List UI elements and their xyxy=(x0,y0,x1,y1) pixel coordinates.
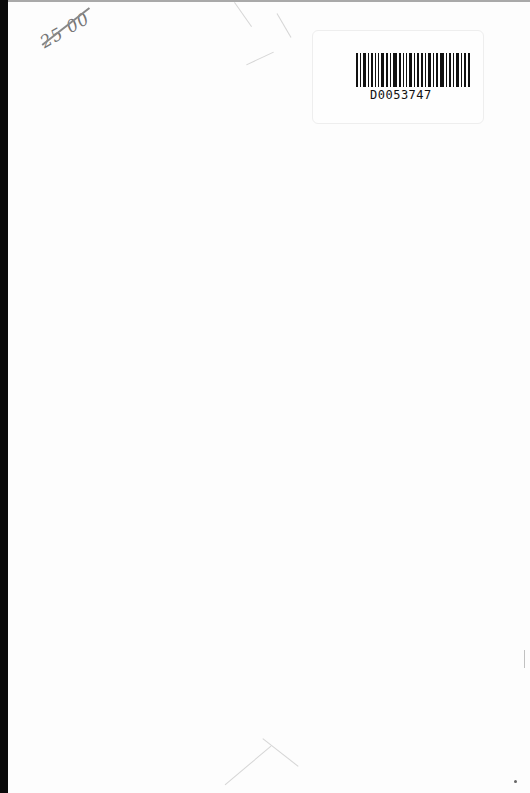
bleed-mark-top-right xyxy=(277,13,292,38)
barcode-bar xyxy=(468,53,470,87)
barcode-bar xyxy=(446,53,447,87)
barcode-bar xyxy=(381,53,384,87)
bleed-mark-top-left xyxy=(234,2,252,27)
barcode-bar xyxy=(428,53,431,87)
barcode-bar xyxy=(421,53,423,87)
speck-bottom-right xyxy=(514,780,517,783)
page-top-edge xyxy=(0,0,530,2)
bleed-mark-top-mid xyxy=(246,52,274,66)
scanned-page: 25 00 D0053747 xyxy=(0,0,530,793)
barcode-bar xyxy=(453,53,454,87)
barcode-bar xyxy=(440,53,444,87)
barcode-bar xyxy=(417,53,419,87)
barcode-bar xyxy=(403,53,404,87)
barcode-bar xyxy=(433,53,434,87)
barcode-bar xyxy=(386,53,388,87)
barcode-bar xyxy=(375,53,376,87)
barcode-bar xyxy=(378,53,379,87)
bleed-mark-bottom-left xyxy=(225,746,272,785)
barcode-bar xyxy=(390,53,391,87)
barcode-bar xyxy=(449,53,451,87)
handwritten-price: 25 00 xyxy=(37,8,93,52)
barcode-bar xyxy=(409,53,412,87)
barcode-bar xyxy=(371,53,373,87)
barcode-number: D0053747 xyxy=(370,88,432,102)
barcode-bar xyxy=(356,53,358,87)
barcode-bar xyxy=(406,53,407,87)
barcode-bar xyxy=(363,53,366,87)
barcode-icon xyxy=(356,53,476,87)
barcode-bar xyxy=(461,53,462,87)
barcode-bar xyxy=(456,53,459,87)
barcode-bar xyxy=(464,53,466,87)
barcode-bar xyxy=(425,53,426,87)
bleed-mark-right-edge xyxy=(524,650,525,668)
barcode-bar xyxy=(436,53,438,87)
barcode-bar xyxy=(368,53,369,87)
book-spine-edge xyxy=(0,0,8,793)
barcode-bar xyxy=(414,53,415,87)
barcode-bar xyxy=(360,53,361,87)
barcode-bar xyxy=(393,53,397,87)
bleed-mark-bottom-right xyxy=(262,738,298,766)
barcode-bar xyxy=(399,53,401,87)
